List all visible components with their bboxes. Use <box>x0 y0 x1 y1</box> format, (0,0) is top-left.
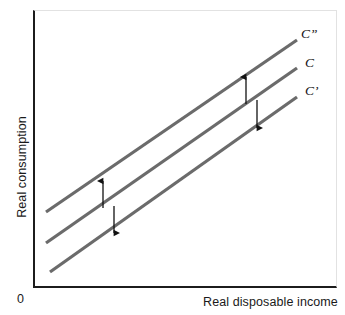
curve-line-middle <box>46 68 297 243</box>
x-axis-title: Real disposable income <box>203 295 338 309</box>
curve-label-lower: C’ <box>305 83 319 99</box>
curve-label-middle: C <box>305 55 314 71</box>
y-axis-title: Real consumption <box>15 107 29 227</box>
origin-label: 0 <box>17 292 24 306</box>
chart-canvas <box>0 0 345 315</box>
curve-label-upper: C” <box>301 26 318 42</box>
chart-figure: C” C C’ Real consumption Real disposable… <box>0 0 345 315</box>
shift-arrows <box>103 77 257 233</box>
consumption-curves <box>46 40 297 272</box>
